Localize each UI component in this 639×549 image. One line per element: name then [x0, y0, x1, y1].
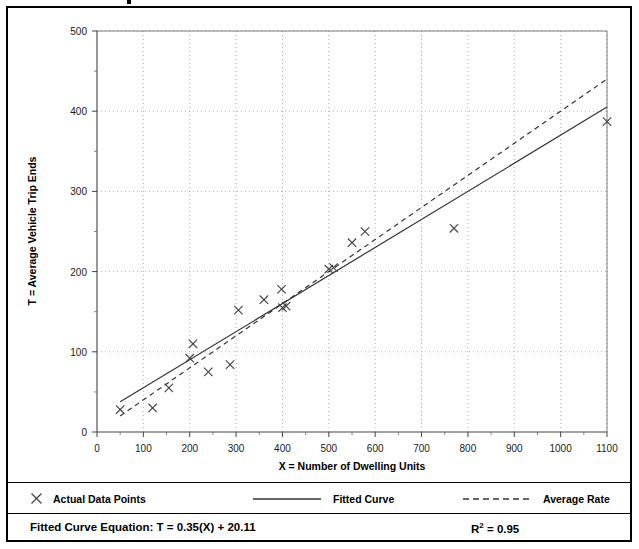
average-rate-line — [120, 79, 607, 416]
data-point-marker — [282, 302, 290, 310]
data-point-marker — [148, 404, 156, 412]
legend-divider — [8, 482, 630, 483]
data-point-marker — [361, 227, 369, 235]
r-squared-text: R2 = 0.95 — [471, 521, 519, 535]
x-tick-label: 400 — [274, 443, 291, 454]
y-tick-labels-group: 0100200300400500 — [70, 26, 87, 438]
plot-area: 010020030040050060070080090010001100 010… — [0, 0, 639, 482]
x-tick-label: 200 — [181, 443, 198, 454]
fitted-curve-line-group — [120, 107, 607, 402]
gridlines-group — [97, 31, 607, 432]
scatter-plot-svg: 010020030040050060070080090010001100 010… — [0, 0, 639, 482]
data-point-marker — [204, 368, 212, 376]
legend-label-average-rate: Average Rate — [543, 493, 610, 505]
legend-label-actual-data-points: Actual Data Points — [53, 493, 146, 505]
y-tick-label: 400 — [70, 106, 87, 117]
data-point-marker — [260, 295, 268, 303]
x-tick-label: 900 — [506, 443, 523, 454]
equation-divider — [8, 513, 630, 514]
x-tick-label: 300 — [228, 443, 245, 454]
chart-legend: Actual Data Points Fitted Curve Average … — [8, 484, 630, 513]
legend-item-fitted-curve: Fitted Curve — [253, 493, 394, 505]
y-tick-label: 500 — [70, 26, 87, 37]
r-squared-value: = 0.95 — [487, 523, 519, 535]
average-rate-line-group — [120, 79, 607, 416]
r-squared-exponent: 2 — [479, 521, 483, 530]
x-tick-label: 100 — [135, 443, 152, 454]
x-tick-label: 800 — [460, 443, 477, 454]
legend-item-actual-data-points: Actual Data Points — [30, 492, 146, 505]
data-point-marker — [234, 306, 242, 314]
data-point-marker — [165, 384, 173, 392]
dashed-line-icon — [463, 494, 531, 504]
x-tick-label: 500 — [320, 443, 337, 454]
x-tick-label: 600 — [367, 443, 384, 454]
x-tick-label: 0 — [94, 443, 100, 454]
y-axis-title: T = Average Vehicle Trip Ends — [26, 156, 38, 305]
axes-group — [97, 31, 607, 432]
data-point-marker — [277, 285, 285, 293]
equation-footer: Fitted Curve Equation: T = 0.35(X) + 20.… — [8, 515, 630, 542]
fitted-curve-equation-text: Fitted Curve Equation: T = 0.35(X) + 20.… — [30, 521, 256, 533]
data-point-marker — [348, 239, 356, 247]
data-point-marker — [226, 360, 234, 368]
chart-page: 010020030040050060070080090010001100 010… — [0, 0, 639, 549]
y-tick-label: 300 — [70, 186, 87, 197]
legend-label-fitted-curve: Fitted Curve — [333, 493, 394, 505]
y-tick-label: 200 — [70, 267, 87, 278]
y-tick-label: 0 — [81, 427, 87, 438]
data-points-group — [116, 117, 611, 413]
ticks-group — [92, 31, 607, 437]
legend-item-average-rate: Average Rate — [463, 493, 610, 505]
fitted-curve-line — [120, 107, 607, 402]
x-marker-icon — [30, 492, 43, 505]
x-tick-label: 1000 — [550, 443, 573, 454]
x-tick-label: 1100 — [596, 443, 618, 454]
x-tick-labels-group: 010020030040050060070080090010001100 — [94, 443, 618, 454]
x-tick-label: 700 — [413, 443, 430, 454]
data-point-marker — [116, 405, 124, 413]
data-point-marker — [450, 224, 458, 232]
x-axis-title: X = Number of Dwelling Units — [279, 460, 426, 472]
y-tick-label: 100 — [70, 347, 87, 358]
solid-line-icon — [253, 494, 321, 504]
